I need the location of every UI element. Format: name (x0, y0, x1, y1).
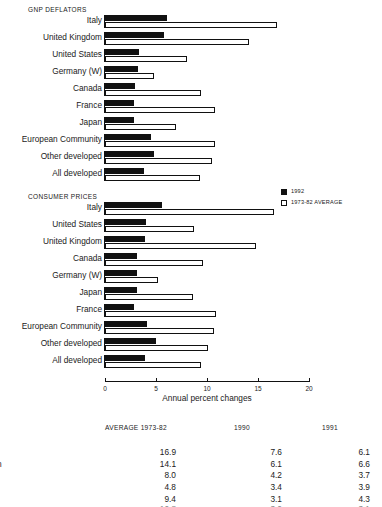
bar-row: European Community (0, 320, 382, 337)
bar-1973-82-average (105, 158, 212, 164)
table-row-label: d States (0, 470, 112, 480)
bar-1973-82-average (105, 345, 208, 351)
bar-1973-82-average (105, 294, 193, 300)
bar-1992 (105, 66, 138, 72)
table-cell: 4.3 (300, 494, 370, 504)
bar-1992 (105, 321, 147, 327)
bar-1992 (105, 49, 139, 55)
table-row-label: any (W) (0, 482, 112, 492)
bar-1973-82-average (105, 209, 274, 215)
table-cell: 3.9 (300, 482, 370, 492)
bar-1973-82-average (105, 22, 277, 28)
bar-row-label: France (0, 100, 102, 111)
bar-1973-82-average (105, 362, 201, 368)
bar-row: All developed (0, 167, 382, 184)
axis-caption: Annual percent changes (105, 393, 309, 403)
bar-1992 (105, 304, 134, 310)
bar-row: United States (0, 48, 382, 65)
bar-rows-consumer-prices: ItalyUnited StatesUnited KingdomCanadaGe… (0, 201, 382, 371)
bar-row-label: Japan (0, 117, 102, 128)
bar-row-label: France (0, 304, 102, 315)
table-row-label: EFLATORS (0, 436, 112, 443)
bar-1973-82-average (105, 175, 200, 181)
bar-row: United States (0, 218, 382, 235)
bar-1992 (105, 219, 146, 225)
axis-tick (309, 378, 310, 382)
axis-tick (156, 378, 157, 382)
bar-row: Italy (0, 14, 382, 31)
bar-1992 (105, 83, 135, 89)
axis-tick (258, 378, 259, 382)
bar-1973-82-average (105, 328, 214, 334)
axis-tick-label: 0 (103, 385, 107, 392)
bar-1992 (105, 202, 162, 208)
bar-row-label: Japan (0, 287, 102, 298)
bar-1973-82-average (105, 311, 216, 317)
bar-row: United Kingdom (0, 31, 382, 48)
bar-1992 (105, 151, 154, 157)
axis-tick-label: 15 (254, 385, 261, 392)
bar-1992 (105, 134, 151, 140)
bar-row-label: Canada (0, 83, 102, 94)
table-row-label: d Kingdom (0, 459, 112, 469)
bar-1973-82-average (105, 90, 201, 96)
axis-tick-label: 10 (203, 385, 210, 392)
table-column-header: AVERAGE 1973-82 (96, 424, 176, 431)
bar-row-label: All developed (0, 355, 102, 366)
table-cell: 9.4 (106, 494, 176, 504)
bar-row-label: Italy (0, 202, 102, 213)
table-cell: 14.1 (106, 459, 176, 469)
bar-1992 (105, 287, 137, 293)
bar-1992 (105, 270, 137, 276)
bar-1992 (105, 355, 145, 361)
bar-row-label: United Kingdom (0, 32, 102, 43)
bar-row: Germany (W) (0, 65, 382, 82)
axis-tick-label: 20 (305, 385, 312, 392)
bar-row: United Kingdom (0, 235, 382, 252)
bar-1973-82-average (105, 141, 215, 147)
axis-tick-label: 5 (154, 385, 158, 392)
bar-row: France (0, 99, 382, 116)
table-row: 16.97.66.1 (0, 447, 382, 459)
table-row: d Kingdom14.16.16.6 (0, 459, 382, 471)
bar-1973-82-average (105, 260, 203, 266)
value-axis: 05101520 (105, 381, 309, 382)
table-column-header: 1990 (207, 424, 277, 431)
table-cell: 6.1 (212, 459, 282, 469)
chart-title-consumer-prices: CONSUMER PRICES (28, 193, 97, 200)
bar-row-label: Germany (W) (0, 270, 102, 281)
bar-row-label: All developed (0, 168, 102, 179)
bar-1992 (105, 15, 167, 21)
table-cell: 3.4 (212, 482, 282, 492)
bar-row: France (0, 303, 382, 320)
table-cell: 7.6 (212, 447, 282, 457)
table-column-header: 1991 (295, 424, 365, 431)
legend-label: 1973-82 AVERAGE (291, 199, 342, 205)
bar-row-label: Canada (0, 253, 102, 264)
bar-row: All developed (0, 354, 382, 371)
bar-row: Other developed (0, 150, 382, 167)
bar-row-label: Italy (0, 15, 102, 26)
table-row: d States8.04.23.7 (0, 470, 382, 482)
bar-row: Other developed (0, 337, 382, 354)
chart-title-gnp-deflators: GNP DEFLATORS (28, 6, 87, 13)
table-row: EFLATORS (0, 436, 382, 448)
bar-1973-82-average (105, 124, 176, 130)
table-cell: 4.2 (212, 470, 282, 480)
legend-label: 1992 (291, 188, 304, 194)
data-table: AVERAGE 1973-8219901991EFLATORS16.97.66.… (0, 424, 382, 505)
bar-1973-82-average (105, 107, 215, 113)
bar-1973-82-average (105, 73, 154, 79)
bar-1992 (105, 32, 164, 38)
bar-row: Canada (0, 252, 382, 269)
table-row: any (W)4.83.43.9 (0, 482, 382, 494)
bar-row: Canada (0, 82, 382, 99)
table-cell: 6.6 (300, 459, 370, 469)
bar-1992 (105, 117, 134, 123)
bar-row-label: Other developed (0, 151, 102, 162)
table-cell: 8.0 (106, 470, 176, 480)
table-cell: 16.9 (106, 447, 176, 457)
bar-1973-82-average (105, 226, 194, 232)
bar-rows-gnp-deflators: ItalyUnited KingdomUnited StatesGermany … (0, 14, 382, 184)
bar-1973-82-average (105, 39, 249, 45)
